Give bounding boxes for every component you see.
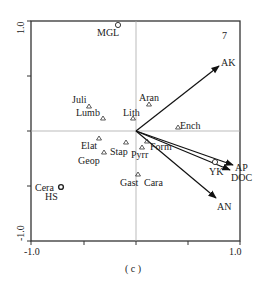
y-tick-top: 1.0 <box>15 22 26 35</box>
circle-hs <box>59 185 64 190</box>
y-tick-bottom: -1.0 <box>15 225 26 241</box>
panel-label: ( c ) <box>125 263 141 275</box>
label-gast: Gast <box>120 177 139 188</box>
label-mgl: MGL <box>97 27 119 38</box>
label-ak: AK <box>221 57 236 68</box>
triangle-geop <box>102 150 107 154</box>
x-tick-left: -1.0 <box>24 246 40 257</box>
label-hs: HS <box>45 191 58 202</box>
label-yk: YK <box>209 166 224 177</box>
label-elat: Elat <box>81 140 97 151</box>
label-lumb: Lumb <box>76 107 100 118</box>
label-an: AN <box>217 201 231 212</box>
label-form: Form <box>150 141 172 152</box>
corner-label: 7 <box>222 30 227 41</box>
circle-yk <box>212 159 217 164</box>
triangle-elat <box>97 136 102 140</box>
triangle-stap <box>124 140 129 144</box>
label-aran: Aran <box>139 92 159 103</box>
label-geop: Geop <box>78 155 100 166</box>
x-tick-right: 1.0 <box>229 246 242 257</box>
label-ench: Ench <box>180 120 201 131</box>
biplot-chart: 1.0 -1.0 -1.0 1.0 7 AK AP DOC AN MGL YK … <box>0 0 268 290</box>
label-doc: DOC <box>231 172 252 183</box>
label-pyrr: Pyrr <box>131 149 149 160</box>
label-juli: Juli <box>72 94 87 105</box>
label-stap: Stap <box>110 146 128 157</box>
label-lith: Lith <box>123 107 140 118</box>
label-cara: Cara <box>144 177 163 188</box>
triangle-lumb <box>101 116 106 120</box>
